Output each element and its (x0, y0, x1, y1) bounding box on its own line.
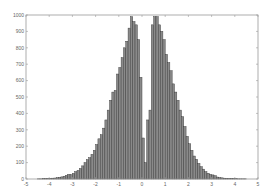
histogram-bar (195, 159, 197, 179)
histogram-bar (75, 172, 77, 179)
y-tick-label: 100 (16, 159, 25, 165)
histogram-bar (165, 54, 167, 179)
histogram-bar (137, 40, 139, 179)
histogram-bar (154, 17, 156, 179)
histogram-bar (126, 41, 128, 179)
histogram-bar (82, 166, 84, 179)
x-tick-label: 3 (210, 181, 213, 187)
histogram-bar (140, 77, 142, 179)
histogram-bar (184, 127, 186, 179)
histogram-bar (209, 174, 211, 179)
histogram-bar (128, 28, 130, 179)
histogram-bar (89, 158, 91, 179)
histogram-bar (63, 176, 65, 179)
histogram-bar (188, 144, 190, 179)
histogram-bar (121, 58, 123, 179)
histogram-bar (135, 25, 137, 179)
histogram-bar (65, 175, 67, 179)
histogram-bar (98, 139, 100, 179)
histogram-bar (170, 71, 172, 179)
histogram-bar (212, 175, 214, 179)
x-tick-label: 4 (233, 181, 236, 187)
histogram-bar (202, 169, 204, 179)
x-tick-label: 5 (257, 181, 260, 187)
histogram-bar (133, 22, 135, 179)
histogram-bar (186, 136, 188, 179)
histogram-bar (198, 163, 200, 179)
histogram-bar (191, 150, 193, 179)
histogram-bar (110, 100, 112, 179)
histogram-bar (205, 172, 207, 179)
histogram-bar (103, 128, 105, 179)
y-tick-label: 400 (16, 110, 25, 116)
histogram-bar (100, 135, 102, 179)
histogram-bar (156, 17, 158, 179)
histogram-chart: 01002003004005006007008009001000 -5-4-3-… (0, 0, 273, 194)
histogram-bar (112, 92, 114, 179)
histogram-bar (158, 25, 160, 179)
histogram-bar (130, 17, 132, 179)
histogram-bar (93, 150, 95, 179)
histogram-bar (114, 90, 116, 179)
x-tick-label: -5 (24, 181, 29, 187)
histogram-bar (193, 156, 195, 179)
x-tick-label: -4 (47, 181, 52, 187)
histogram-bar (142, 138, 144, 179)
y-tick-label: 300 (16, 127, 25, 133)
histogram-bar (147, 120, 149, 179)
histogram-bar (172, 84, 174, 179)
histogram-bar (86, 160, 88, 179)
histogram-bar (161, 31, 163, 179)
histogram-bar (72, 173, 74, 179)
histogram-bar (91, 154, 93, 179)
x-tick-label: -1 (117, 181, 122, 187)
histogram-bar (174, 92, 176, 179)
y-tick-label: 500 (16, 94, 25, 100)
histogram-bar (119, 67, 121, 179)
histogram-bar (181, 117, 183, 179)
histogram-bar (107, 110, 109, 179)
histogram-bar (105, 120, 107, 179)
x-tick-label: 2 (187, 181, 190, 187)
histogram-bar (68, 174, 70, 179)
x-tick-label: -2 (93, 181, 98, 187)
histogram-bar (144, 163, 146, 179)
histogram-bars (38, 17, 247, 179)
histogram-bar (168, 63, 170, 179)
histogram-bar (96, 145, 98, 179)
histogram-bar (151, 25, 153, 179)
histogram-bar (70, 175, 72, 179)
histogram-bar (123, 48, 125, 179)
x-tick-label: 0 (141, 181, 144, 187)
histogram-bar (84, 163, 86, 179)
x-tick-label: 1 (164, 181, 167, 187)
histogram-bar (207, 173, 209, 179)
histogram-bar (214, 176, 216, 179)
histogram-bar (163, 40, 165, 179)
histogram-bar (200, 167, 202, 179)
y-tick-label: 700 (16, 61, 25, 67)
y-tick-label: 200 (16, 143, 25, 149)
y-tick-label: 900 (16, 28, 25, 34)
y-tick-label: 600 (16, 77, 25, 83)
histogram-bar (179, 110, 181, 179)
x-tick-label: -3 (70, 181, 75, 187)
y-tick-label: 800 (16, 45, 25, 51)
histogram-bar (177, 100, 179, 179)
y-tick-label: 1000 (13, 12, 24, 18)
histogram-bar (149, 110, 151, 179)
histogram-bar (79, 169, 81, 180)
histogram-bar (77, 170, 79, 179)
histogram-bar (116, 74, 118, 179)
